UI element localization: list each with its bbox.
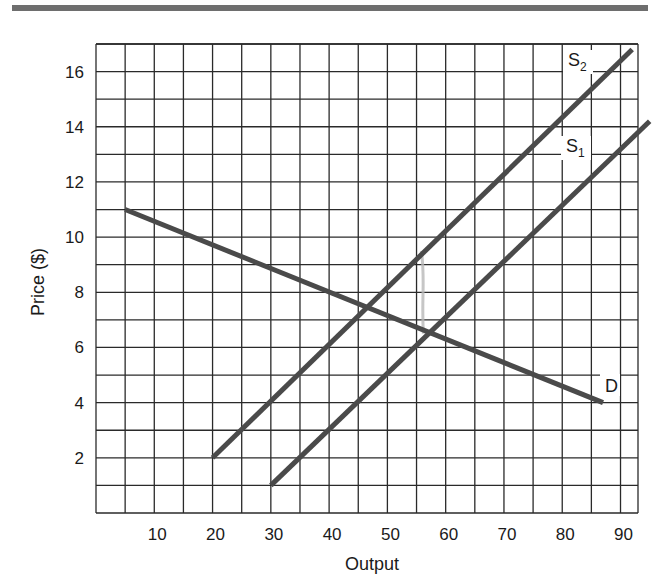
y-axis-label: Price ($) bbox=[28, 248, 48, 316]
y-tick-label: 12 bbox=[65, 173, 84, 192]
y-tick-label: 10 bbox=[65, 228, 84, 247]
y-tick-label: 16 bbox=[65, 63, 84, 82]
curve-s2 bbox=[213, 50, 633, 458]
x-tick-label: 20 bbox=[206, 525, 225, 544]
y-tick-label: 4 bbox=[75, 394, 84, 413]
y-tick-label: 6 bbox=[75, 338, 84, 357]
x-tick-label: 50 bbox=[381, 525, 400, 544]
y-tick-label: 2 bbox=[75, 449, 84, 468]
x-tick-label: 30 bbox=[264, 525, 283, 544]
y-tick-label: 8 bbox=[75, 283, 84, 302]
curve-d bbox=[125, 210, 603, 403]
supply-demand-chart: 102030405060708090246810121416 Output Pr… bbox=[0, 0, 660, 588]
x-tick-label: 90 bbox=[614, 525, 633, 544]
x-tick-label: 80 bbox=[556, 525, 575, 544]
curve-label-d: D bbox=[605, 376, 618, 396]
pencil-mark bbox=[421, 251, 423, 334]
x-axis-label: Output bbox=[345, 554, 399, 574]
x-tick-label: 70 bbox=[497, 525, 516, 544]
x-tick-label: 40 bbox=[323, 525, 342, 544]
grid bbox=[96, 44, 638, 513]
x-tick-label: 60 bbox=[439, 525, 458, 544]
y-tick-label: 14 bbox=[65, 118, 84, 137]
x-tick-label: 10 bbox=[148, 525, 167, 544]
